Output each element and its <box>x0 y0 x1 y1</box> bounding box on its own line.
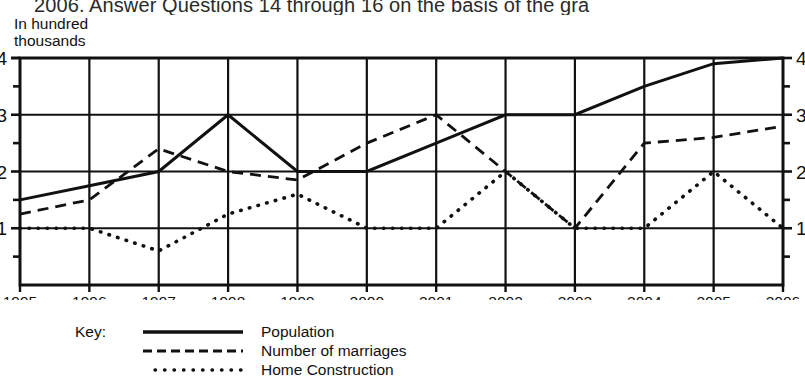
x-tick-label: 1995 <box>3 293 37 300</box>
x-tick-label: 2004 <box>627 293 662 300</box>
dotted-line-swatch-icon <box>141 364 245 376</box>
chart-page: 2006. Answer Questions 14 through 16 on … <box>0 0 805 387</box>
x-axis-labels: 1995199619971998199920002001200220032004… <box>3 293 800 300</box>
solid-line-swatch <box>141 322 259 341</box>
y-tick-label-left: 4 <box>0 48 7 69</box>
y-tick-label-right: 1 <box>796 218 805 239</box>
series-line-home-construction <box>20 172 783 251</box>
legend-title: Key: <box>75 322 141 341</box>
y-tick-label-right: 4 <box>796 48 805 69</box>
y-tick-label-right: 3 <box>796 105 805 126</box>
y-tick-label-left: 3 <box>0 105 7 126</box>
chart-series-layer <box>20 58 783 251</box>
legend-row: Key: Population <box>75 322 407 341</box>
legend-spacer <box>75 341 141 360</box>
x-tick-label: 2002 <box>488 293 522 300</box>
dashed-line-swatch-icon <box>141 345 245 357</box>
y-tick-label-right: 2 <box>796 162 805 183</box>
legend-label-marriages: Number of marriages <box>259 341 407 360</box>
y-tick-label-left: 2 <box>0 162 7 183</box>
solid-line-swatch-icon <box>141 326 245 338</box>
chart-legend: Key: Population Number of marriages <box>75 322 495 379</box>
x-tick-label: 1997 <box>141 293 175 300</box>
legend-spacer <box>75 360 141 379</box>
y-axis-labels-right: 1234 <box>796 48 805 239</box>
dotted-line-swatch <box>141 360 259 379</box>
x-tick-label: 1996 <box>72 293 106 300</box>
chart-gridlines <box>20 58 783 285</box>
y-axis-labels-left: 1234 <box>0 48 7 239</box>
x-tick-label: 1999 <box>280 293 314 300</box>
chart-axis-ticks <box>11 58 792 292</box>
chart-svg: 1234 1234 199519961997199819992000200120… <box>0 0 805 300</box>
x-tick-label: 2005 <box>696 293 730 300</box>
legend-row: Number of marriages <box>75 341 407 360</box>
line-chart: 1234 1234 199519961997199819992000200120… <box>0 0 805 300</box>
x-tick-label: 1998 <box>211 293 245 300</box>
x-tick-label: 2003 <box>558 293 592 300</box>
x-tick-label: 2000 <box>350 293 385 300</box>
legend-label-population: Population <box>259 322 407 341</box>
legend-label-home-construction: Home Construction <box>259 360 407 379</box>
dashed-line-swatch <box>141 341 259 360</box>
legend-row: Home Construction <box>75 360 407 379</box>
x-tick-label: 2006 <box>766 293 800 300</box>
x-tick-label: 2001 <box>419 293 453 300</box>
y-tick-label-left: 1 <box>0 218 7 239</box>
